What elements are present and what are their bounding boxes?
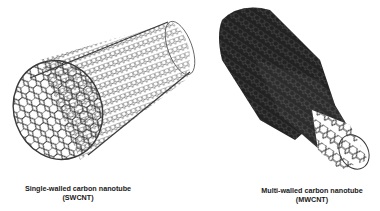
single-walled-carbon-nanotube-icon [0,0,200,172]
multi-walled-carbon-nanotube-icon [200,0,380,172]
mwcnt-caption-title: Multi-walled carbon nanotube [248,186,376,195]
swcnt-caption: Single-walled carbon nanotube (SWCNT) [12,184,144,202]
swcnt-caption-title: Single-walled carbon nanotube [12,184,144,193]
mwcnt-caption-abbr: (MWCNT) [248,195,376,204]
swcnt-caption-abbr: (SWCNT) [12,193,144,202]
swcnt-illustration [0,0,200,172]
mwcnt-illustration [200,0,380,172]
mwcnt-caption: Multi-walled carbon nanotube (MWCNT) [248,186,376,204]
